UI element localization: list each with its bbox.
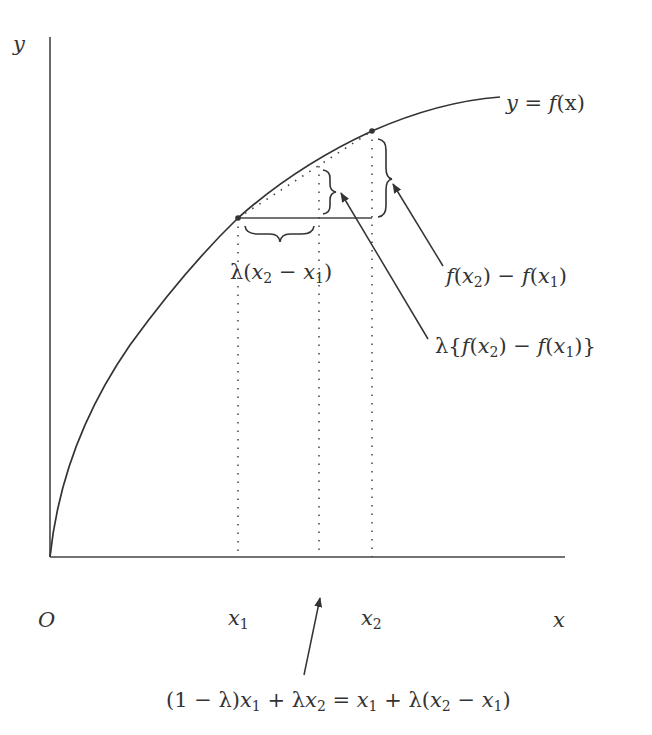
ldx-s2: 2: [263, 270, 272, 286]
bf-x2: x: [305, 688, 317, 712]
bf-x1: x: [240, 688, 252, 712]
y-axis-label: y: [13, 34, 25, 55]
bf-e: −: [451, 688, 482, 712]
point-x2: [369, 128, 375, 134]
brace-lambda-dx: [245, 226, 314, 242]
arrow-midpoint: [304, 598, 320, 675]
bf-a: (1 − λ): [166, 688, 240, 712]
lambda-df-label: λ{f(x2) − f(x1)}: [435, 336, 596, 359]
bf-b: + λ: [261, 688, 305, 712]
ldx-pre: λ(: [230, 260, 252, 284]
x1-sub: 1: [240, 616, 249, 632]
bf-f: ): [502, 688, 510, 712]
x2-base: x: [361, 606, 373, 630]
curve-label-eq: =: [518, 91, 549, 115]
bf-s1b: 1: [369, 698, 378, 714]
bf-x1c: x: [482, 688, 494, 712]
ldx-mid: −: [272, 260, 303, 284]
ldf-mid: ) −: [498, 334, 537, 358]
bf-d: + λ(: [378, 688, 430, 712]
chord-dotted: [238, 131, 372, 218]
curve-label-f: f: [549, 91, 557, 115]
curve-label-arg: (x): [557, 91, 585, 115]
curve-label-y: y: [506, 91, 518, 115]
curve-f: [50, 97, 500, 557]
df-f1: f: [446, 264, 454, 288]
df-p1: (: [454, 264, 462, 288]
lambda-dx-label: λ(x2 − x1): [230, 262, 332, 285]
df-s1: 1: [550, 274, 559, 290]
bf-x2b: x: [430, 688, 442, 712]
arrow-lambda-df: [341, 193, 428, 339]
ldx-post: ): [324, 260, 332, 284]
ldx-s1: 1: [315, 270, 324, 286]
curve-label: y = f(x): [506, 93, 585, 114]
df-label: f(x2) − f(x1): [446, 266, 567, 289]
bf-s2b: 2: [442, 698, 451, 714]
bottom-formula: (1 − λ)x1 + λx2 = x1 + λ(x2 − x1): [166, 690, 511, 713]
point-x1: [235, 215, 241, 221]
ldf-x1: x: [554, 334, 566, 358]
x-axis-label: x: [553, 610, 565, 631]
df-f2: f: [522, 264, 530, 288]
df-mid: ) −: [483, 264, 522, 288]
bf-x1b: x: [357, 688, 369, 712]
x2-label: x2: [361, 608, 382, 631]
bf-c: =: [326, 688, 357, 712]
bf-s2: 2: [317, 698, 326, 714]
brace-lambda-df: [323, 170, 336, 214]
ldx-x2: x: [252, 260, 264, 284]
bf-s1: 1: [252, 698, 261, 714]
df-p2: (: [530, 264, 538, 288]
x1-label: x1: [228, 608, 249, 631]
df-s2: 2: [474, 274, 483, 290]
origin-label: O: [38, 610, 55, 631]
ldx-x1: x: [303, 260, 315, 284]
ldf-p1: (: [469, 334, 477, 358]
ldf-pre: λ{: [435, 334, 462, 358]
ldf-s1: 1: [565, 344, 574, 360]
df-x2: x: [462, 264, 474, 288]
ldf-post: )}: [574, 334, 596, 358]
x2-sub: 2: [373, 616, 382, 632]
df-x1: x: [538, 264, 550, 288]
df-post: ): [559, 264, 567, 288]
arrow-df: [393, 184, 443, 266]
x1-base: x: [228, 606, 240, 630]
ldf-x2: x: [478, 334, 490, 358]
ldf-p2: (: [545, 334, 553, 358]
brace-df: [378, 139, 392, 217]
